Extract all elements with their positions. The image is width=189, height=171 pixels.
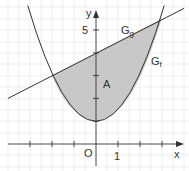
x-axis-arrow-icon — [176, 141, 184, 147]
y-tick-label-5: 5 — [82, 24, 88, 36]
origin-label: O — [84, 147, 93, 159]
x-axis-label: x — [174, 148, 180, 160]
x-tick-label-1: 1 — [114, 150, 120, 162]
gf-label-main: G — [151, 55, 160, 67]
y-axis-arrow-icon — [93, 10, 99, 18]
gf-label: Gf — [151, 55, 163, 69]
y-axis-label: y — [86, 7, 92, 19]
gg-label-sub: g — [130, 29, 134, 38]
area-label-a: A — [103, 78, 111, 90]
gg-label: Gg — [121, 24, 134, 38]
gg-label-main: G — [121, 24, 130, 36]
function-graph: y x O 1 5 A Gg Gf — [0, 0, 189, 171]
